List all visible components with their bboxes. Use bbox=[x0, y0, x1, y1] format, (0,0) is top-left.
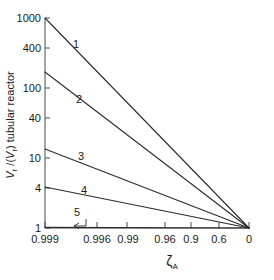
y-tick-label: 400 bbox=[23, 42, 41, 54]
y-tick-label: 1000 bbox=[17, 12, 41, 24]
x-axis-title-sub: A bbox=[172, 262, 178, 271]
plot-area: 1000 400 100 40 10 4 1 0.999 0.996 0.99 … bbox=[0, 0, 274, 280]
svg-text:Vr /(Vr) tubular reactor: Vr /(Vr) tubular reactor bbox=[4, 71, 19, 179]
x-tick-label: 0.99 bbox=[117, 233, 138, 245]
x-tick-label: 0.9 bbox=[183, 233, 198, 245]
y-axis-title-mid: /( bbox=[4, 159, 16, 169]
curve-label-1: 1 bbox=[73, 38, 79, 50]
x-tick-label: 0.999 bbox=[31, 233, 59, 245]
y-tick-labels: 1000 400 100 40 10 4 1 bbox=[17, 12, 41, 234]
y-axis-title: Vr /(Vr) tubular reactor bbox=[4, 71, 19, 179]
x-tick-label: 0.996 bbox=[83, 233, 111, 245]
svg-text:ζA: ζA bbox=[166, 253, 178, 271]
x-tick-label: 0.6 bbox=[211, 233, 226, 245]
curve-annotations: 1 2 3 4 5 bbox=[73, 38, 87, 229]
y-tick-label: 4 bbox=[35, 182, 41, 194]
curve-5 bbox=[45, 227, 249, 228]
chart-figure: 1000 400 100 40 10 4 1 0.999 0.996 0.99 … bbox=[0, 0, 274, 280]
x-tick-label: 0.96 bbox=[154, 233, 175, 245]
y-tick-label: 10 bbox=[29, 152, 41, 164]
curve-label-4: 4 bbox=[81, 184, 87, 196]
y-axis-title-tail: ) tubular reactor bbox=[4, 71, 16, 149]
curve-label-3: 3 bbox=[78, 150, 84, 162]
y-tick-label: 40 bbox=[29, 112, 41, 124]
x-tick-labels: 0.999 0.996 0.99 0.96 0.9 0.6 0 bbox=[31, 233, 252, 245]
y-tick-marks bbox=[45, 18, 50, 228]
y-tick-label: 100 bbox=[23, 82, 41, 94]
x-axis-title: ζA bbox=[166, 253, 178, 271]
x-tick-label: 0 bbox=[246, 233, 252, 245]
curve-label-5: 5 bbox=[74, 206, 80, 218]
curve-label-2: 2 bbox=[76, 93, 82, 105]
